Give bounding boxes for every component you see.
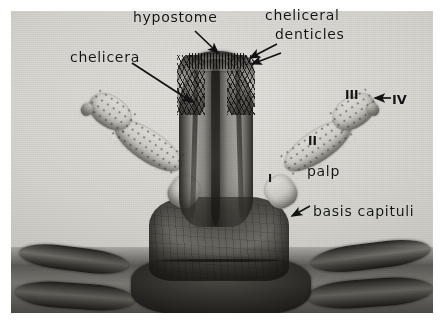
label-palp-segment-three: III bbox=[345, 88, 358, 102]
label-basis-capituli: basis capituli bbox=[313, 203, 414, 219]
label-palp: palp bbox=[307, 163, 340, 179]
label-cheliceral-denticles-line2: denticles bbox=[275, 26, 345, 42]
label-palp-segment-four: IV bbox=[392, 92, 407, 107]
figure-page: hypostome cheliceral denticles chelicera… bbox=[0, 0, 445, 332]
label-chelicera: chelicera bbox=[70, 49, 140, 65]
label-palp-segment-two: II bbox=[308, 134, 317, 148]
label-palp-segment-one: I bbox=[268, 172, 272, 185]
label-hypostome: hypostome bbox=[133, 9, 218, 25]
label-cheliceral-denticles-line1: cheliceral bbox=[265, 7, 340, 23]
